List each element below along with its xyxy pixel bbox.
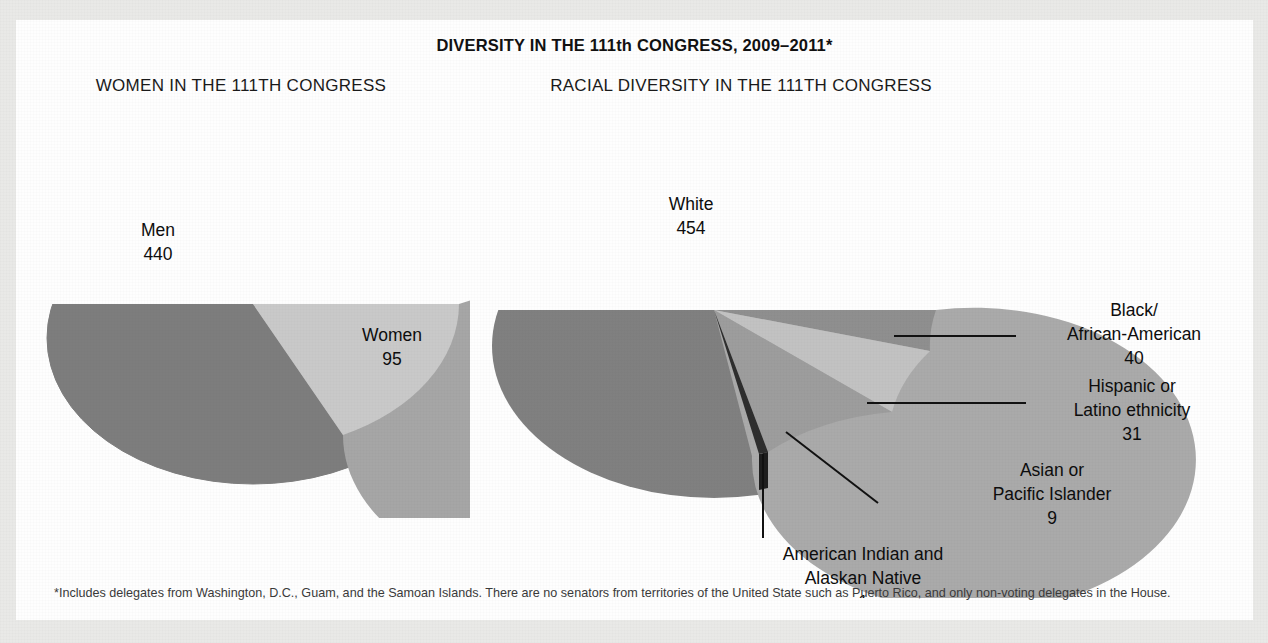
label-amerindian-line1: American Indian and [783, 544, 944, 564]
figure-panel: DIVERSITY IN THE 111th CONGRESS, 2009–20… [16, 20, 1253, 620]
label-white-name: White [669, 194, 714, 214]
label-asian-value: 9 [1047, 508, 1057, 528]
figure-footnote: *Includes delegates from Washington, D.C… [54, 585, 1224, 602]
label-white-value: 454 [676, 218, 705, 238]
label-men-name: Men [141, 220, 175, 240]
label-black-line2: African-American [1067, 324, 1201, 344]
label-asian-line2: Pacific Islander [993, 484, 1112, 504]
chart-subtitle-racial: RACIAL DIVERSITY IN THE 111TH CONGRESS [491, 76, 991, 96]
label-women-name: Women [362, 325, 422, 345]
label-black-value: 40 [1124, 348, 1144, 368]
chart-subtitle-women: WOMEN IN THE 111TH CONGRESS [26, 76, 456, 96]
figure-title: DIVERSITY IN THE 111th CONGRESS, 2009–20… [16, 36, 1253, 55]
label-women-value: 95 [382, 349, 401, 369]
label-hispanic-line2: Latino ethnicity [1074, 400, 1191, 420]
figure-page: lorem the house and senate members were … [0, 0, 1268, 643]
label-asian-line1: Asian or [1020, 460, 1084, 480]
label-hispanic-value: 31 [1122, 424, 1141, 444]
pie-chart-women: Men 440 Women 95 [40, 98, 470, 518]
label-black-line1: Black/ [1110, 300, 1158, 320]
pie-chart-racial: White 454 Black/ African-American 40 His… [486, 98, 1246, 598]
label-hispanic-line1: Hispanic or [1088, 376, 1176, 396]
label-men-value: 440 [143, 244, 172, 264]
